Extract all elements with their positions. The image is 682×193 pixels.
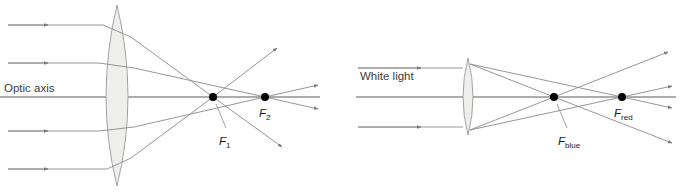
focal-point-f2-label: F2 (259, 107, 271, 122)
refracted-ray-3b (265, 85, 318, 97)
focal-point-fblue-leader (557, 104, 567, 128)
optic-axis-label: Optic axis (4, 82, 55, 94)
ray-diagram-svg: Optic axis F1 F2 (0, 0, 682, 193)
focal-point-fred-dot (618, 93, 626, 101)
focal-point-f1-label: F1 (219, 135, 231, 150)
red-ray-upper-a (470, 64, 622, 97)
red-ray-upper-b (622, 97, 672, 108)
right-diagram-group: White light Fblue Fred (356, 52, 676, 150)
white-light-label: White light (360, 70, 414, 82)
converging-lens (106, 5, 128, 186)
blue-ray-upper-a (470, 64, 554, 97)
converging-lens-right (463, 58, 473, 135)
focal-point-fblue-label: Fblue (558, 135, 581, 150)
optics-figure: Optic axis F1 F2 (0, 0, 682, 193)
focal-point-fblue-dot (550, 93, 558, 101)
red-ray-lower-a (470, 97, 622, 130)
focal-point-fred-subscript: red (621, 113, 633, 122)
focal-point-f1-dot (209, 93, 217, 101)
refracted-ray-4a (131, 97, 213, 158)
refracted-ray-1a (131, 37, 213, 97)
left-diagram-group: Optic axis F1 F2 (0, 5, 320, 186)
blue-ray-lower-a (470, 97, 554, 130)
focal-point-fblue-subscript: blue (565, 141, 581, 150)
refracted-ray-2b (265, 97, 318, 109)
refracted-ray-4b (213, 48, 277, 97)
focal-point-fred-label: Fred (614, 107, 633, 122)
focal-point-f2-dot (261, 93, 269, 101)
refracted-ray-3a (134, 97, 265, 127)
focal-point-f1-leader (216, 104, 226, 128)
red-ray-lower-b (622, 86, 672, 97)
focal-point-f1-subscript: 1 (226, 141, 231, 150)
focal-point-f2-subscript: 2 (266, 113, 271, 122)
